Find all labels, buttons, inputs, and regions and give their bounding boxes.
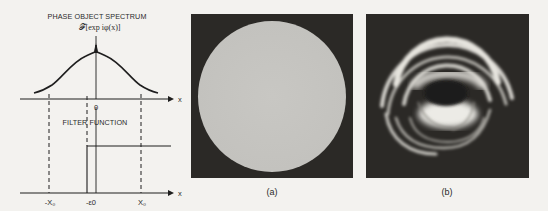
top-axis-arrow-icon xyxy=(168,96,174,102)
bottom-axis-arrow-icon xyxy=(168,190,174,196)
dark-center xyxy=(424,80,468,106)
tick-neg-x0: -X₀ xyxy=(45,198,56,207)
caption-b: (b) xyxy=(427,187,467,197)
image-panel-b xyxy=(366,14,529,178)
top-axis-label: x xyxy=(178,95,182,104)
bottom-axis-label: x xyxy=(178,189,182,198)
fringe-pattern xyxy=(366,14,529,178)
spectrum-formula: 𝓕[exp iφ(x)] xyxy=(79,23,120,32)
tick-neg-eps: -ε0 xyxy=(86,198,96,207)
image-panel-a xyxy=(191,14,353,178)
uniform-disk xyxy=(198,21,346,172)
phase-spectrum-diagram: PHASE OBJECT SPECTRUM 𝓕[exp iφ(x)] x 0 F… xyxy=(0,0,185,211)
tick-x0: X₀ xyxy=(138,198,146,207)
filter-step xyxy=(87,146,171,193)
diagram-title: PHASE OBJECT SPECTRUM xyxy=(47,12,146,21)
caption-a: (a) xyxy=(252,187,292,197)
filter-title: FILTER FUNCTION xyxy=(63,118,128,127)
